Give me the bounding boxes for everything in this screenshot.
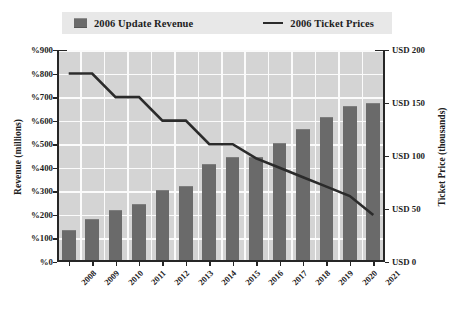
- y-axis-right-tick-label: USD 200: [392, 45, 444, 55]
- legend-item-revenue: 2006 Update Revenue: [74, 18, 193, 29]
- y-axis-left-tick-mark: [53, 262, 57, 263]
- line-series: [57, 50, 385, 262]
- y-axis-right-tick-mark: [385, 156, 389, 157]
- x-axis-tick-label: 2014: [219, 268, 238, 287]
- x-axis-tick-label: 2018: [313, 268, 332, 287]
- y-axis-right-tick-label: USD 50: [392, 204, 444, 214]
- chart-container: 2006 Update Revenue 2006 Ticket Prices R…: [0, 0, 452, 315]
- legend-item-ticket-prices: 2006 Ticket Prices: [263, 18, 374, 29]
- y-axis-left-tick-label: %800: [13, 69, 53, 79]
- corner-bracket-top-right: [375, 50, 385, 60]
- x-axis-tick-label: 2009: [102, 268, 121, 287]
- plot-area: [57, 50, 385, 262]
- y-axis-left-tick-label: %600: [13, 116, 53, 126]
- bar-swatch-icon: [74, 18, 87, 28]
- x-axis-tick-mark: [280, 262, 281, 266]
- x-axis-tick-label: 2020: [360, 268, 379, 287]
- axis-line-right: [383, 50, 385, 262]
- legend-label-ticket-prices: 2006 Ticket Prices: [290, 18, 374, 29]
- x-axis-tick-label: 2010: [126, 268, 145, 287]
- y-axis-left-tick-label: %900: [13, 45, 53, 55]
- x-axis-tick-mark: [69, 262, 70, 266]
- x-axis-tick-label: 2008: [79, 268, 98, 287]
- x-axis-tick-label: 2017: [290, 268, 309, 287]
- y-axis-left-tick-label: %100: [13, 233, 53, 243]
- x-axis-tick-mark: [92, 262, 93, 266]
- legend-label-revenue: 2006 Update Revenue: [94, 18, 193, 29]
- x-axis-tick-label: 2013: [196, 268, 215, 287]
- axis-line-left: [57, 50, 59, 262]
- x-axis-tick-mark: [233, 262, 234, 266]
- y-axis-right-tick-label: USD 100: [392, 151, 444, 161]
- x-axis-tick-mark: [373, 262, 374, 266]
- x-axis-tick-label: 2012: [172, 268, 191, 287]
- x-axis-tick-mark: [256, 262, 257, 266]
- y-axis-right-tick-label: USD 150: [392, 98, 444, 108]
- x-axis-tick-label: 2016: [266, 268, 285, 287]
- y-axis-right-tick-mark: [385, 103, 389, 104]
- corner-bracket-top-left: [57, 50, 67, 60]
- x-axis-tick-mark: [303, 262, 304, 266]
- ticket-price-line: [69, 74, 374, 215]
- x-axis-tick-mark: [116, 262, 117, 266]
- y-axis-left-tick-label: %200: [13, 210, 53, 220]
- chart-legend: 2006 Update Revenue 2006 Ticket Prices: [62, 12, 392, 34]
- x-axis-tick-label: 2021: [383, 268, 402, 287]
- y-axis-right-tick-mark: [385, 50, 389, 51]
- y-axis-left-tick-label: %500: [13, 139, 53, 149]
- x-axis-tick-mark: [186, 262, 187, 266]
- x-axis-tick-mark: [209, 262, 210, 266]
- x-axis-tick-label: 2011: [149, 268, 168, 287]
- y-axis-right-tick-label: USD 0: [392, 257, 444, 267]
- y-axis-left-tick-label: %400: [13, 163, 53, 173]
- axis-line-bottom: [57, 260, 385, 262]
- x-axis-tick-mark: [162, 262, 163, 266]
- x-axis-tick-mark: [326, 262, 327, 266]
- y-axis-right-tick-mark: [385, 262, 389, 263]
- y-axis-right-tick-mark: [385, 209, 389, 210]
- x-axis-tick-mark: [139, 262, 140, 266]
- y-axis-left-tick-label: %300: [13, 186, 53, 196]
- x-axis-tick-label: 2019: [336, 268, 355, 287]
- y-axis-left-tick-label: %0: [13, 257, 53, 267]
- line-swatch-icon: [263, 22, 283, 24]
- x-axis-tick-mark: [350, 262, 351, 266]
- x-axis-tick-label: 2015: [243, 268, 262, 287]
- y-axis-left-tick-label: %700: [13, 92, 53, 102]
